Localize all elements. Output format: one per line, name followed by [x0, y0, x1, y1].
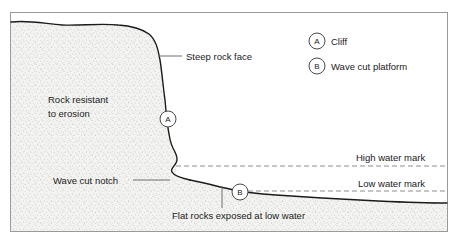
label-steep-rock-face: Steep rock face [186, 51, 252, 62]
label-flat-rocks: Flat rocks exposed at low water [172, 210, 305, 221]
coastal-erosion-diagram: A B Steep rock face Rock resistant to er… [0, 0, 458, 246]
label-wave-cut-notch: Wave cut notch [53, 175, 118, 186]
label-high-water-mark: High water mark [356, 152, 425, 163]
marker-b: B [232, 184, 248, 200]
key-label-wave-cut-platform: Wave cut platform [331, 61, 407, 72]
marker-a: A [160, 111, 176, 127]
diagram-canvas: A B Steep rock face Rock resistant to er… [0, 0, 458, 246]
marker-a-letter: A [165, 115, 171, 124]
key-label-cliff: Cliff [331, 36, 348, 47]
label-rock-resistant-line2: to erosion [48, 108, 90, 119]
key-marker-b-letter: B [314, 62, 319, 71]
label-rock-resistant-line1: Rock resistant [48, 94, 109, 105]
key-marker-a-letter: A [314, 37, 320, 46]
marker-b-letter: B [237, 188, 242, 197]
label-low-water-mark: Low water mark [358, 178, 425, 189]
